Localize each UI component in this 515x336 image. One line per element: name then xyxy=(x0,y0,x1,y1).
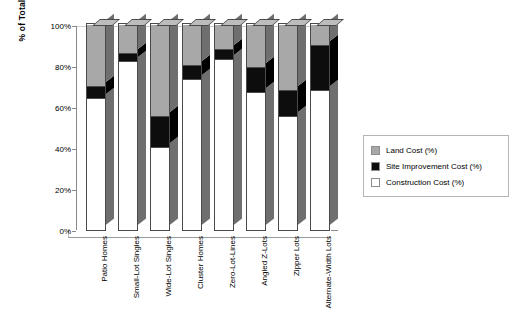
bar-front-face[interactable] xyxy=(246,23,266,231)
bar-segment-land[interactable] xyxy=(87,25,105,87)
bar-front-face[interactable] xyxy=(278,23,298,231)
bar-segment-site-improvement[interactable] xyxy=(151,117,169,148)
bar-segment-divider xyxy=(151,147,169,148)
bar-segment-construction[interactable] xyxy=(183,80,201,230)
bar-segment-construction[interactable] xyxy=(151,148,169,230)
bar-side-face xyxy=(202,11,210,225)
bar-segment-land[interactable] xyxy=(279,25,297,91)
bar-segment-site-improvement[interactable] xyxy=(311,46,329,91)
bar-segment-land[interactable] xyxy=(311,25,329,46)
legend-swatch-icon xyxy=(371,178,380,187)
bar-top-face xyxy=(156,19,184,26)
x-axis-label: Patio Homes xyxy=(100,236,110,282)
x-axis-label: Wide-Lot Singles xyxy=(164,236,174,296)
legend-swatch-icon xyxy=(371,162,380,171)
bar-segment-divider xyxy=(183,65,201,66)
bar-side-segment xyxy=(298,106,306,225)
bar-side-face xyxy=(138,11,146,225)
plot-area: 0%20%40%60%80%100% xyxy=(76,23,338,231)
bar-segment-divider xyxy=(87,86,105,87)
bar-side-face xyxy=(234,11,242,225)
bar-segment-land[interactable] xyxy=(183,25,201,66)
legend-swatch-icon xyxy=(371,146,380,155)
bar-group[interactable] xyxy=(118,23,138,231)
bar-segment-land[interactable] xyxy=(151,25,169,117)
bar-segment-land[interactable] xyxy=(119,25,137,54)
bar-front-face[interactable] xyxy=(118,23,138,231)
bar-top-face xyxy=(188,19,216,26)
y-axis-tick-label: 20% xyxy=(55,186,71,195)
bar-group[interactable] xyxy=(182,23,202,231)
legend-item[interactable]: Construction Cost (%) xyxy=(371,174,502,190)
bar-side-face xyxy=(106,11,114,225)
x-axis-label: Zero-Lot-Lines xyxy=(228,236,238,288)
bar-top-face xyxy=(252,19,280,26)
bar-segment-site-improvement[interactable] xyxy=(183,66,201,80)
legend-item[interactable]: Land Cost (%) xyxy=(371,142,502,158)
bar-front-face[interactable] xyxy=(214,23,234,231)
y-axis-tick-label: 80% xyxy=(55,63,71,72)
bar-group[interactable] xyxy=(214,23,234,231)
x-axis-label: Angled Z-Lots xyxy=(260,236,270,286)
x-axis-label: Zipper Lots xyxy=(292,236,302,276)
bar-segment-divider xyxy=(151,116,169,117)
x-axis-label: Cluster Homes xyxy=(196,236,206,289)
bar-segment-land[interactable] xyxy=(215,25,233,50)
bar-segment-construction[interactable] xyxy=(215,60,233,230)
bar-segment-divider xyxy=(119,53,137,54)
bar-side-face xyxy=(298,11,306,225)
bar-side-face xyxy=(266,11,274,225)
bar-front-face[interactable] xyxy=(86,23,106,231)
y-axis-tick-label: 60% xyxy=(55,104,71,113)
bar-side-segment xyxy=(234,49,242,225)
bar-segment-divider xyxy=(311,45,329,46)
bar-segment-construction[interactable] xyxy=(119,62,137,230)
legend-label: Land Cost (%) xyxy=(386,146,437,155)
bar-series-container xyxy=(76,23,338,231)
bar-side-segment xyxy=(170,106,178,143)
bar-segment-construction[interactable] xyxy=(87,99,105,230)
bar-group[interactable] xyxy=(310,23,330,231)
bar-segment-site-improvement[interactable] xyxy=(279,91,297,118)
bar-segment-site-improvement[interactable] xyxy=(247,68,265,93)
bar-group[interactable] xyxy=(150,23,170,231)
bar-front-face[interactable] xyxy=(150,23,170,231)
bar-front-face[interactable] xyxy=(182,23,202,231)
stacked-bar-chart: % of Total Costs 0%20%40%60%80%100% Pati… xyxy=(0,0,515,336)
legend-label: Construction Cost (%) xyxy=(386,178,464,187)
chart-legend: Land Cost (%)Site Improvement Cost (%)Co… xyxy=(363,135,509,197)
legend-item[interactable]: Site Improvement Cost (%) xyxy=(371,158,502,174)
bar-top-face xyxy=(92,19,120,26)
bar-side-segment xyxy=(330,34,338,85)
x-axis-label: Alternate-Width Lots xyxy=(324,236,334,308)
bar-group[interactable] xyxy=(246,23,266,231)
bar-segment-divider xyxy=(87,98,105,99)
bar-segment-divider xyxy=(279,116,297,117)
bar-segment-divider xyxy=(215,59,233,60)
bar-side-segment xyxy=(330,79,338,225)
bar-segment-divider xyxy=(183,79,201,80)
y-axis-tick-mark xyxy=(72,231,76,232)
bar-group[interactable] xyxy=(278,23,298,231)
bar-segment-divider xyxy=(247,67,265,68)
bar-segment-land[interactable] xyxy=(247,25,265,68)
bar-group[interactable] xyxy=(86,23,106,231)
bar-top-face xyxy=(124,19,152,26)
bar-side-segment xyxy=(106,88,114,225)
bar-segment-divider xyxy=(279,90,297,91)
bar-side-segment xyxy=(202,69,210,225)
y-axis-tick-label: 0% xyxy=(59,227,71,236)
bar-top-face xyxy=(316,19,344,26)
bar-segment-construction[interactable] xyxy=(279,117,297,230)
bar-segment-construction[interactable] xyxy=(311,91,329,230)
bar-front-face[interactable] xyxy=(310,23,330,231)
bar-top-face xyxy=(284,19,312,26)
bar-segment-divider xyxy=(311,90,329,91)
bar-segment-divider xyxy=(119,61,137,62)
bar-segment-construction[interactable] xyxy=(247,93,265,230)
bar-top-face xyxy=(220,19,248,26)
y-axis-tick-label: 40% xyxy=(55,145,71,154)
bar-side-segment xyxy=(170,137,178,225)
bar-side-segment xyxy=(138,51,146,225)
x-axis-labels: Patio HomesSmall-Lot SinglesWide-Lot Sin… xyxy=(76,236,356,332)
